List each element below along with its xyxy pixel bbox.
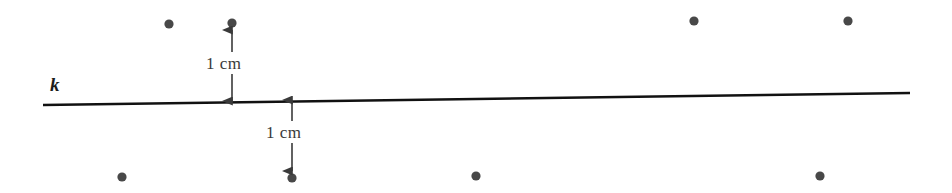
line-k-stroke bbox=[43, 93, 910, 105]
point-marker-below-1 bbox=[287, 173, 296, 182]
point-marker-above-0 bbox=[164, 19, 173, 28]
point-marker-below-2 bbox=[471, 171, 480, 180]
figure-canvas bbox=[0, 0, 952, 193]
dots-below-line bbox=[117, 171, 824, 182]
dimension-label-above: 1 cm bbox=[206, 55, 242, 72]
point-marker-above-1 bbox=[227, 18, 236, 27]
line-k bbox=[43, 93, 910, 105]
point-marker-below-0 bbox=[117, 172, 126, 181]
line-label-k: k bbox=[50, 75, 60, 94]
point-marker-above-2 bbox=[689, 16, 698, 25]
dimension-label-below: 1 cm bbox=[266, 124, 302, 141]
point-marker-below-3 bbox=[815, 171, 824, 180]
point-marker-above-3 bbox=[843, 16, 852, 25]
geometry-figure: k 1 cm 1 cm bbox=[0, 0, 952, 193]
dots-above-line bbox=[164, 16, 852, 28]
